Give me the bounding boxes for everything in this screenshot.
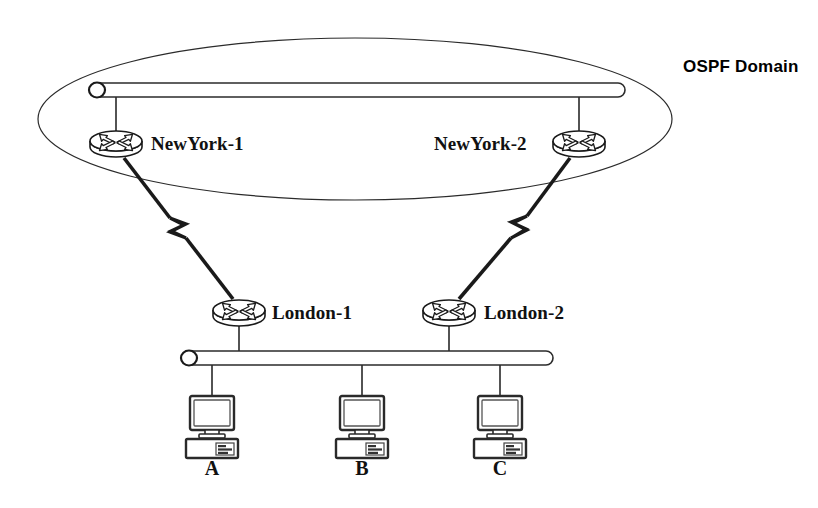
- host-pc-b[interactable]: [336, 396, 388, 458]
- router-london-2[interactable]: [423, 300, 475, 326]
- router-newyork-1[interactable]: [90, 131, 142, 157]
- host-label-c: C: [490, 458, 510, 478]
- ospf-domain-label: OSPF Domain: [683, 58, 799, 75]
- router-london-1[interactable]: [213, 300, 265, 326]
- serial-link-newyork1-london1: [124, 158, 233, 299]
- lightning-bolt-icon: [170, 218, 186, 238]
- host-label-a: A: [202, 458, 222, 478]
- host-pc-a[interactable]: [186, 396, 238, 458]
- router-label-london-1: London-1: [272, 303, 352, 322]
- host-pc-c[interactable]: [474, 396, 526, 458]
- network-diagram-canvas: OSPF Domain NewYork-1 NewYork-2 London-1…: [0, 0, 818, 508]
- lightning-bolt-icon: [511, 216, 527, 238]
- router-newyork-2[interactable]: [553, 131, 605, 157]
- serial-link-newyork2-london2: [459, 158, 570, 299]
- router-label-newyork-2: NewYork-2: [434, 134, 527, 153]
- ethernet-bar-london-lan: [181, 351, 553, 366]
- router-label-london-2: London-2: [484, 303, 564, 322]
- router-label-newyork-1: NewYork-1: [151, 134, 244, 153]
- network-diagram-svg: [0, 0, 818, 508]
- ospf-domain-boundary: [38, 38, 672, 200]
- host-label-b: B: [352, 458, 372, 478]
- ethernet-bar-ospf-backbone: [89, 83, 625, 98]
